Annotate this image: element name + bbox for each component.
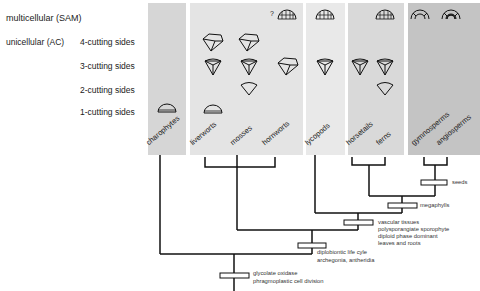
megaphylls-marker bbox=[388, 203, 417, 208]
note-seeds: seeds bbox=[452, 179, 467, 186]
seeds-marker bbox=[421, 180, 447, 185]
note-vascular-3: leaves and roots bbox=[378, 240, 421, 247]
vascular-marker bbox=[344, 220, 373, 225]
note-glycolate-1: phragmoplastic cell division bbox=[253, 278, 324, 285]
phylogeny-svg bbox=[0, 0, 480, 291]
note-diplobiontic-0: diplobiontic life cyle bbox=[317, 249, 367, 256]
note-diplobiontic-1: archegonia, antheridia bbox=[317, 257, 374, 264]
diplobiontic-marker bbox=[298, 243, 326, 248]
note-megaphylls: megaphylls bbox=[420, 202, 449, 209]
glycolate-marker bbox=[220, 273, 249, 278]
note-glycolate-0: glycolate oxidase bbox=[253, 270, 297, 277]
